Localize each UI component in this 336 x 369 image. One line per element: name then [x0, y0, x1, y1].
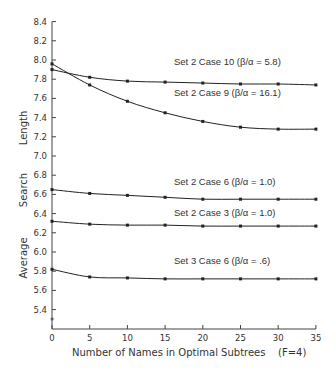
data-point: [239, 225, 242, 228]
y-tick-label: 6.0: [33, 247, 47, 257]
data-point: [88, 275, 91, 278]
data-point: [88, 76, 91, 79]
data-point: [201, 82, 204, 85]
x-tick-label: 0: [49, 333, 54, 343]
x-tick-label: 10: [122, 333, 133, 343]
data-point: [201, 277, 204, 280]
y-tick-label: 7.8: [33, 74, 47, 84]
data-point: [277, 83, 280, 86]
data-point: [164, 196, 167, 199]
asterisk-marker: *: [50, 316, 54, 326]
x-tick-label: 25: [235, 333, 246, 343]
data-point: [164, 224, 167, 227]
series-label: Set 2 Case 3 (β/α = 1.0): [174, 207, 276, 218]
line-chart: 5.45.65.86.06.26.46.66.87.07.27.47.67.88…: [0, 0, 336, 369]
x-tick-label: 5: [87, 333, 92, 343]
data-point: [88, 192, 91, 195]
y-tick-label: 7.2: [33, 132, 47, 142]
data-point: [164, 81, 167, 84]
data-point: [277, 198, 280, 201]
data-point: [277, 277, 280, 280]
y-axis-title-average: Average: [18, 237, 29, 278]
data-point: [239, 198, 242, 201]
data-point: [201, 198, 204, 201]
x-axis-note: (F=4): [278, 347, 306, 358]
data-point: [239, 126, 242, 129]
x-tick-label: 35: [310, 333, 321, 343]
data-point: [51, 68, 54, 71]
series-label: Set 3 Case 6 (β/α = .6): [174, 255, 270, 266]
data-point: [88, 223, 91, 226]
data-point: [201, 120, 204, 123]
series-line: [52, 190, 316, 200]
series-line: [52, 70, 316, 85]
y-tick-label: 8.0: [33, 55, 47, 65]
data-point: [314, 83, 317, 86]
data-point: [126, 224, 129, 227]
x-tick-label: 20: [197, 333, 208, 343]
series-label: Set 2 Case 10 (β/α = 5.8): [174, 56, 281, 67]
data-point: [126, 80, 129, 83]
x-axis-title: Number of Names in Optimal Subtrees: [72, 347, 265, 358]
series-line: [52, 221, 316, 226]
data-point: [277, 225, 280, 228]
data-point: [126, 194, 129, 197]
data-point: [164, 277, 167, 280]
y-tick-label: 7.0: [33, 151, 47, 161]
data-point: [239, 277, 242, 280]
series-label: Set 2 Case 6 (β/α = 1.0): [174, 176, 276, 187]
data-point: [51, 268, 54, 271]
data-point: [201, 225, 204, 228]
data-point: [314, 277, 317, 280]
y-tick-label: 6.8: [33, 170, 47, 180]
data-point: [164, 111, 167, 114]
data-point: [239, 83, 242, 86]
data-point: [126, 100, 129, 103]
series-line: [52, 269, 316, 279]
y-axis-title-search: Search: [18, 173, 29, 207]
data-point: [277, 128, 280, 131]
series-label: Set 2 Case 9 (β/α = 16.1): [174, 87, 281, 98]
data-point: [88, 83, 91, 86]
x-tick-label: 15: [160, 333, 171, 343]
y-axis-title-length: Length: [18, 111, 29, 146]
y-tick-label: 6.4: [33, 209, 47, 219]
x-tick-label: 30: [273, 333, 284, 343]
y-tick-label: 5.6: [33, 285, 47, 295]
data-point: [314, 225, 317, 228]
y-tick-label: 5.4: [33, 305, 47, 315]
y-tick-label: 8.4: [33, 17, 47, 27]
data-point: [51, 220, 54, 223]
data-point: [314, 198, 317, 201]
y-tick-label: 6.2: [33, 228, 47, 238]
data-point: [51, 62, 54, 65]
y-tick-label: 5.8: [33, 266, 47, 276]
series-labels: Set 2 Case 10 (β/α = 5.8)Set 2 Case 9 (β…: [174, 56, 281, 267]
y-tick-label: 8.2: [33, 36, 47, 46]
y-tick-label: 7.4: [33, 113, 47, 123]
data-point: [314, 128, 317, 131]
y-tick-label: 6.6: [33, 189, 47, 199]
data-point: [126, 276, 129, 279]
y-tick-label: 7.6: [33, 93, 47, 103]
data-point: [51, 188, 54, 191]
